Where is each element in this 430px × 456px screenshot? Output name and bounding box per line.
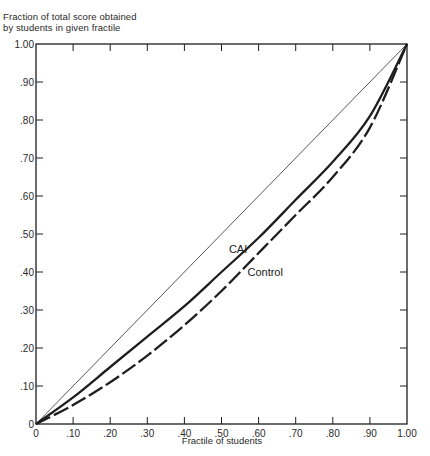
y-tick-label: 1.00 (15, 39, 35, 50)
series-label-control: Control (247, 266, 282, 278)
y-tick-label: .30 (20, 305, 34, 316)
x-tick-label: .10 (66, 428, 80, 439)
series-line-equality-line (36, 44, 407, 424)
y-tick-label: .50 (20, 229, 34, 240)
y-tick-label: .60 (20, 191, 34, 202)
series-label-cai: CAI (229, 243, 247, 255)
x-tick-label: .20 (103, 428, 117, 439)
y-tick-label: .20 (20, 343, 34, 354)
x-tick-label: .70 (289, 428, 303, 439)
y-tick-label: 0 (28, 419, 34, 430)
data-series (36, 44, 407, 424)
y-tick-label: .10 (20, 381, 34, 392)
lorenz-chart: 0.10.20.30.40.50.60.70.80.901.00 0.10.20… (0, 0, 430, 456)
y-axis-ticks: 0.10.20.30.40.50.60.70.80.901.00 (15, 39, 407, 430)
x-tick-label: 1.00 (397, 428, 417, 439)
y-tick-label: .80 (20, 115, 34, 126)
y-tick-label: .90 (20, 77, 34, 88)
x-axis-title: Fractile of students (182, 435, 263, 446)
x-tick-label: 0 (33, 428, 39, 439)
series-annotations: CAIControl (229, 243, 283, 278)
y-tick-label: .70 (20, 153, 34, 164)
y-tick-label: .40 (20, 267, 34, 278)
x-tick-label: .30 (140, 428, 154, 439)
x-tick-label: .80 (326, 428, 340, 439)
x-axis-ticks: 0.10.20.30.40.50.60.70.80.901.00 (33, 44, 417, 439)
x-tick-label: .90 (363, 428, 377, 439)
